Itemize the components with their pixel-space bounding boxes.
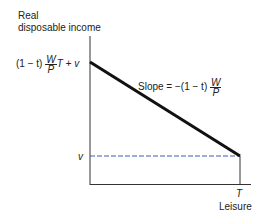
diagram-canvas — [0, 0, 267, 224]
slope-prefix: Slope = −(1 − t) — [138, 81, 207, 92]
frac-den: P — [45, 65, 56, 74]
intercept-prefix: (1 − t) — [16, 58, 42, 69]
slope-label: Slope = −(1 − t) WP — [138, 78, 221, 97]
x-tick-T: T — [236, 188, 242, 199]
y-intercept-label: (1 − t) WPT + v — [16, 55, 79, 74]
y-axis-label-line2: disposable income — [18, 22, 101, 33]
intercept-fraction: WP — [45, 55, 56, 74]
frac-den: P — [210, 88, 221, 97]
y-tick-v: v — [78, 151, 83, 162]
intercept-suffix: T + v — [57, 58, 80, 69]
x-axis-label: Leisure — [219, 201, 252, 212]
y-axis-label-line1: Real — [18, 10, 39, 21]
slope-fraction: WP — [210, 78, 221, 97]
